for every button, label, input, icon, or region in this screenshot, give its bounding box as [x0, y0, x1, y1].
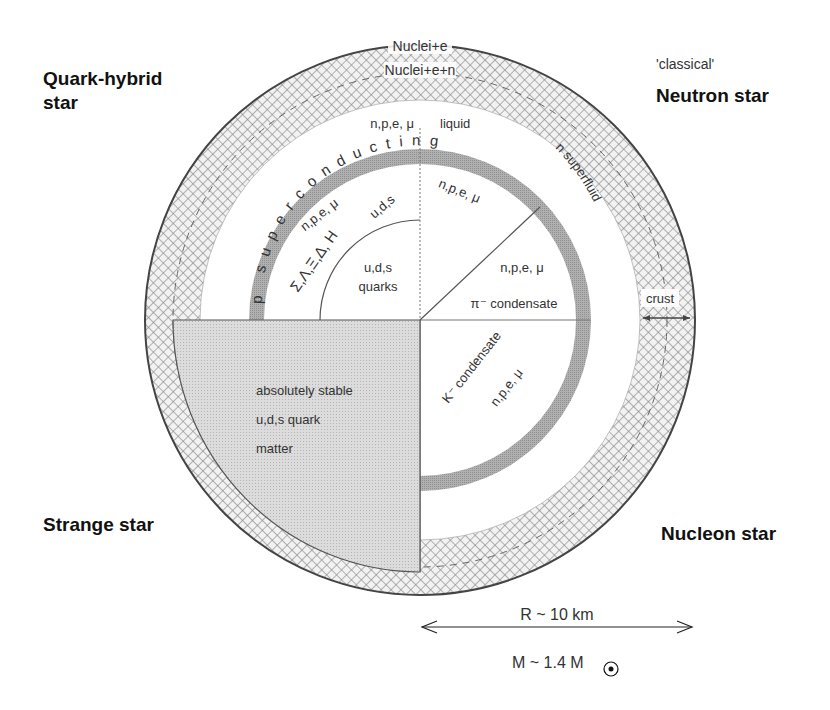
liquid-state-label: liquid: [440, 116, 470, 131]
sun-symbol-icon: [604, 662, 618, 676]
strange-line2: u,d,s quark: [256, 412, 321, 427]
pion-condensate-label: π⁻ condensate: [471, 296, 558, 311]
neutron-star-title: Neutron star: [656, 84, 769, 108]
nucleon-star-title: Nucleon star: [661, 522, 776, 546]
liquid-particles: n,p,e, μ: [370, 116, 414, 131]
crust-label: crust: [646, 291, 675, 306]
neutron-lower-particles: n,p,e, μ: [500, 260, 544, 275]
strange-line1: absolutely stable: [256, 383, 353, 398]
quark-hybrid-star-title: Quark-hybrid star: [43, 67, 162, 115]
strange-star-title: Strange star: [43, 513, 154, 537]
crust-outer-label: Nuclei+e: [393, 38, 448, 54]
quark-core-line1: u,d,s: [364, 260, 393, 275]
radius-label: R ~ 10 km: [520, 606, 593, 623]
quark-hybrid-line1: Quark-hybrid: [43, 67, 162, 91]
mass-label: M ~ 1.4 M: [512, 654, 584, 671]
classical-label: 'classical': [656, 56, 714, 72]
crust-inner-label: Nuclei+e+n: [385, 62, 456, 78]
strange-line3: matter: [256, 441, 294, 456]
strange-star-quadrant: [173, 320, 420, 572]
quark-core-line2: quarks: [358, 279, 398, 294]
quark-hybrid-line2: star: [43, 91, 162, 115]
